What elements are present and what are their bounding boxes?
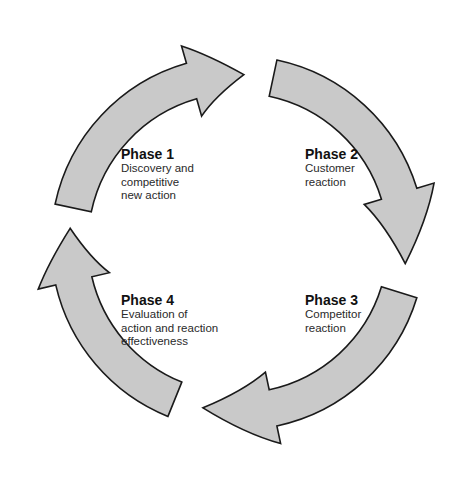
phase-2-description: Customer reaction [305, 162, 358, 189]
phase-3-label: Phase 3 Competitor reaction [305, 292, 361, 335]
phase-3-description: Competitor reaction [305, 308, 361, 335]
phase-2-label: Phase 2 Customer reaction [305, 146, 358, 189]
phase-4-description: Evaluation of action and reaction effect… [121, 308, 218, 349]
cycle-diagram [0, 0, 473, 485]
phase-4-label: Phase 4 Evaluation of action and reactio… [121, 292, 218, 349]
phase-1-description: Discovery and competitive new action [121, 162, 194, 203]
phase-1-title: Phase 1 [121, 146, 194, 162]
phase-1-label: Phase 1 Discovery and competitive new ac… [121, 146, 194, 203]
phase-3-title: Phase 3 [305, 292, 361, 308]
phase-4-title: Phase 4 [121, 292, 218, 308]
phase-2-title: Phase 2 [305, 146, 358, 162]
